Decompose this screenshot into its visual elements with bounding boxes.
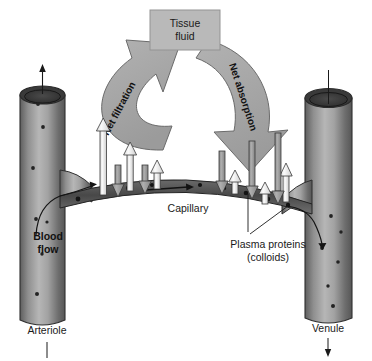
tissue-fluid-label-line2: fluid <box>175 30 194 42</box>
plasma-proteins-label-line1: Plasma proteins <box>230 238 305 250</box>
net-filtration-big-arrow: Net filtration <box>100 40 180 150</box>
plasma-proteins-leader-2 <box>250 206 288 234</box>
venule-outflow-head <box>325 349 331 357</box>
venule-vessel <box>282 70 352 323</box>
venule-label: Venule <box>312 322 344 334</box>
capillary-label: Capillary <box>168 202 210 214</box>
net-absorption-big-arrow: Net absorption <box>196 40 288 172</box>
net-filtration-arrow-shape <box>102 40 180 150</box>
tissue-fluid-label-line1: Tissue <box>170 17 201 29</box>
tissue-fluid-box: Tissue fluid <box>150 10 220 50</box>
blood-flow-label-line1: Blood <box>33 230 63 242</box>
arteriole-top-arrow-head <box>39 64 46 72</box>
blood-flow-label-line2: flow <box>38 243 60 255</box>
capillary-exchange-diagram: Net filtration Net absorption Tissue flu… <box>0 0 372 361</box>
arteriole-label: Arteriole <box>27 324 66 336</box>
filtration-arrow <box>96 118 110 195</box>
diagram-canvas: Net filtration Net absorption Tissue flu… <box>0 0 372 361</box>
plasma-proteins-label-line2: (colloids) <box>247 251 289 263</box>
